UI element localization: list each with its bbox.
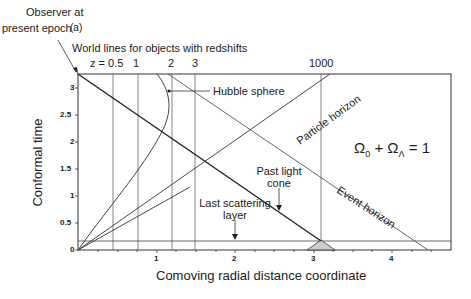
omega-sub-0: 0 <box>365 149 370 159</box>
event-horizon-label: Event horizon <box>335 184 398 231</box>
x-axis-title: Comoving radial distance coordinate <box>156 268 366 283</box>
last-scattering-label-line1: Last scattering <box>198 197 272 209</box>
equals-one: = 1 <box>409 139 430 156</box>
y-tick-2.5: 2.5 <box>60 110 71 119</box>
y-tick-0.5: 0.5 <box>60 218 71 227</box>
past-light-cone-label-line2: cone <box>256 177 302 189</box>
omega-symbol: Ω <box>354 139 365 156</box>
redshift-worldlines <box>113 74 321 250</box>
observer-label-line2: present epoch <box>2 22 72 34</box>
redshift-label-1000: 1000 <box>309 57 333 69</box>
y-tick-0: 0 <box>70 245 74 254</box>
redshift-label-3: 3 <box>192 57 198 69</box>
observer-arrowhead-icon <box>73 67 78 74</box>
worldlines-title: World lines for objects with redshifts <box>72 42 247 54</box>
y-tick-1.5: 1.5 <box>60 164 71 173</box>
hubble-sphere-label: Hubble sphere <box>213 85 285 97</box>
omega-symbol-lambda: Ω <box>387 139 398 156</box>
x-tick-3: 3 <box>311 254 315 263</box>
last-scattering-arrowhead-icon <box>232 234 238 240</box>
past-light-cone-label-line1: Past light <box>256 165 302 177</box>
x-tick-2: 2 <box>232 254 236 263</box>
y-tick-2: 2 <box>70 137 74 146</box>
origin-light-ray <box>78 187 190 250</box>
panel-label: (a) <box>70 22 82 34</box>
y-tick-1: 1 <box>70 191 74 200</box>
redshift-label-0.5: z = 0.5 <box>90 57 123 69</box>
last-scattering-cone <box>307 240 335 250</box>
x-tick-1: 1 <box>154 254 158 263</box>
x-tick-4: 4 <box>389 254 393 263</box>
redshift-label-2: 2 <box>168 57 174 69</box>
plus-sign: + <box>374 139 383 156</box>
observer-label-line1: Observer at <box>26 6 83 18</box>
last-scattering-label-line2: layer <box>198 209 272 221</box>
y-tick-3: 3 <box>70 83 74 92</box>
redshift-label-1: 1 <box>133 57 139 69</box>
particle-horizon-label: Particle horizon <box>294 92 362 146</box>
omega-equation: Ω0 + ΩΛ = 1 <box>354 140 430 162</box>
hubble-sphere-curve <box>78 74 169 250</box>
y-axis-title: Conformal time <box>30 113 45 213</box>
omega-sub-lambda: Λ <box>399 149 405 159</box>
